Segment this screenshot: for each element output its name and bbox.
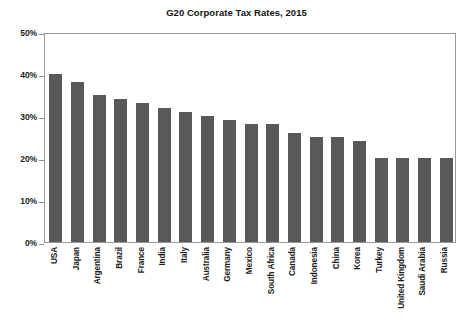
x-axis-tick: Mexico — [244, 243, 257, 333]
x-axis-tick-label: Korea — [354, 247, 362, 270]
x-axis-tick: United Kingdom — [395, 243, 408, 333]
x-axis-tick: Canada — [287, 243, 300, 333]
x-axis-tick-label: Saudi Arabia — [419, 247, 427, 296]
bar — [179, 112, 192, 242]
y-axis: 50%40%30%20%10%0% — [0, 33, 44, 244]
bar — [114, 99, 127, 242]
bar — [331, 137, 344, 242]
x-axis-tick-label: France — [137, 247, 145, 273]
y-axis-tick-label: 30% — [20, 112, 37, 122]
x-axis-tick: India — [157, 243, 170, 333]
bar — [440, 158, 453, 242]
x-axis-tick: USA — [48, 243, 61, 333]
bar-chart: G20 Corporate Tax Rates, 2015 50%40%30%2… — [0, 0, 473, 333]
bar — [245, 124, 258, 242]
x-axis-tick-label: India — [159, 247, 167, 266]
x-axis: USAJapanArgentinaBrazilFranceIndiaItalyA… — [44, 243, 456, 333]
x-axis-tick-label: Russia — [441, 247, 449, 273]
bars-layer — [45, 34, 455, 242]
x-axis-tick: Saudi Arabia — [417, 243, 430, 333]
chart-title: G20 Corporate Tax Rates, 2015 — [0, 7, 473, 18]
x-axis-tick: Italy — [178, 243, 191, 333]
bar — [201, 116, 214, 242]
y-axis-tick-label: 20% — [20, 154, 37, 164]
y-axis-tick-label: 0% — [25, 238, 37, 248]
x-axis-tick-label: Mexico — [246, 247, 254, 274]
x-axis-tick-label: China — [333, 247, 341, 269]
bar — [71, 82, 84, 242]
x-axis-tick-label: Australia — [203, 247, 211, 281]
y-axis-tick-label: 50% — [20, 28, 37, 38]
x-axis-tick: China — [330, 243, 343, 333]
x-axis-tick-label: Indonesia — [311, 247, 319, 284]
bar — [418, 158, 431, 242]
x-axis-tick-label: Canada — [289, 247, 297, 276]
bar — [136, 103, 149, 242]
x-axis-tick-label: Turkey — [376, 247, 384, 273]
x-axis-tick-label: USA — [51, 247, 59, 264]
bar — [93, 95, 106, 242]
x-axis-tick: Turkey — [374, 243, 387, 333]
plot-area — [44, 33, 456, 243]
x-axis-tick: Russia — [439, 243, 452, 333]
bar — [353, 141, 366, 242]
x-axis-tick: Argentina — [92, 243, 105, 333]
x-axis-tick-label: Argentina — [94, 247, 102, 284]
x-axis-tick-label: Brazil — [116, 247, 124, 269]
x-axis-tick: Australia — [200, 243, 213, 333]
bar — [49, 74, 62, 242]
x-axis-tick: Indonesia — [309, 243, 322, 333]
bar — [375, 158, 388, 242]
bar — [310, 137, 323, 242]
x-axis-tick-label: Italy — [181, 247, 189, 263]
bar — [396, 158, 409, 242]
bar — [158, 108, 171, 242]
x-axis-tick-label: Japan — [72, 247, 80, 270]
x-axis-tick: South Africa — [265, 243, 278, 333]
y-axis-tick-label: 10% — [20, 196, 37, 206]
y-axis-tick-label: 40% — [20, 70, 37, 80]
bar — [266, 124, 279, 242]
x-axis-tick-label: United Kingdom — [398, 247, 406, 309]
x-axis-tick: Germany — [222, 243, 235, 333]
bar — [288, 133, 301, 242]
x-axis-tick: Brazil — [113, 243, 126, 333]
x-axis-tick: Korea — [352, 243, 365, 333]
x-axis-tick-label: South Africa — [268, 247, 276, 294]
bar — [223, 120, 236, 242]
x-axis-tick: Japan — [70, 243, 83, 333]
x-axis-tick-label: Germany — [224, 247, 232, 282]
x-axis-tick: France — [135, 243, 148, 333]
